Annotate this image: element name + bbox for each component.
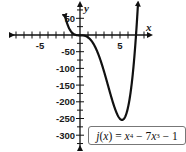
- minus-sign: −: [136, 130, 143, 142]
- term2-exponent: 3: [156, 132, 160, 140]
- x-axis-label: x: [145, 21, 152, 33]
- y-axis: [76, 4, 84, 148]
- y-tick-label: -200: [56, 96, 75, 107]
- function-name: j: [96, 130, 99, 142]
- function-equation-label: j(x) = x4 − 7x3 − 1: [88, 126, 186, 145]
- y-tick-label: -100: [56, 63, 75, 74]
- function-variable: x: [103, 130, 108, 142]
- constant-term: 1: [172, 130, 178, 142]
- x-tick-label: -5: [36, 40, 45, 51]
- x-tick-label: 5: [117, 40, 123, 51]
- y-tick-label: -250: [56, 113, 75, 124]
- y-tick-label: -50: [61, 46, 75, 57]
- equals-sign: =: [115, 130, 122, 142]
- minus-sign: −: [163, 130, 170, 142]
- y-tick-label: -300: [56, 130, 75, 141]
- function-curve: [65, 4, 138, 120]
- y-axis-label: y: [82, 2, 89, 14]
- term1-exponent: 4: [130, 132, 134, 140]
- y-tick-label: -150: [56, 80, 75, 91]
